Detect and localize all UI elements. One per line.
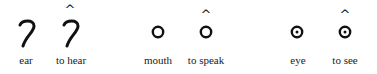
label-to-hear: to hear [56, 54, 86, 66]
label-to-see: to see [332, 54, 357, 66]
mouth-circle-icon [151, 25, 165, 39]
label-eye: eye [290, 54, 305, 66]
eye-circle-dot-icon [338, 25, 352, 39]
caret-icon: ^ [65, 3, 76, 16]
ear-icon [16, 18, 38, 48]
label-ear: ear [19, 54, 32, 66]
mouth-circle-icon [199, 25, 213, 39]
caret-icon: ^ [201, 8, 212, 21]
caret-icon: ^ [340, 8, 351, 21]
ear-icon [60, 18, 82, 48]
label-mouth: mouth [144, 54, 172, 66]
eye-circle-dot-icon [290, 25, 304, 39]
label-to-speak: to speak [188, 54, 224, 66]
